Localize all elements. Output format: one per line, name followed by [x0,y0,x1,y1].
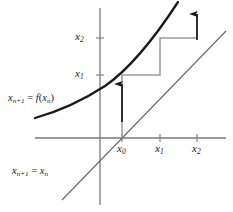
function-label-equals: = [25,92,36,103]
cobweb-path [122,14,197,138]
identity-label-lhs-sub: n+1 [17,170,29,178]
x-axis-label-x1: x1 [155,143,164,156]
function-equation-label: xn+1 = f(xn) [8,93,54,105]
identity-label-equals: = [29,165,40,176]
y-axis-label-x2-sub: 2 [80,35,84,44]
cobweb-diagram: x2 x1 x0 x1 x2 xn+1 = f(xn) xn+1 = xn [0,0,233,212]
x-axis-label-x0: x0 [117,143,126,156]
function-label-close-paren: ) [50,92,54,103]
x-axis-label-x2-sub: 2 [197,147,201,156]
y-axis-label-x1: x1 [75,68,84,81]
diagram-canvas [0,0,233,212]
function-label-lhs-sub: n+1 [13,97,25,105]
function-curve [35,2,178,118]
y-axis-label-x1-sub: 1 [80,72,84,81]
identity-equation-label: xn+1 = xn [12,166,48,178]
x-axis-label-x2: x2 [192,143,201,156]
x-axis-label-x1-sub: 1 [160,147,164,156]
identity-line [62,31,226,200]
x-axis-label-x0-sub: 0 [122,147,126,156]
y-axis-label-x2: x2 [75,31,84,44]
identity-label-rhs-sub: n [44,170,48,178]
tick-marks [96,38,197,142]
cobweb-staircase [122,14,197,138]
